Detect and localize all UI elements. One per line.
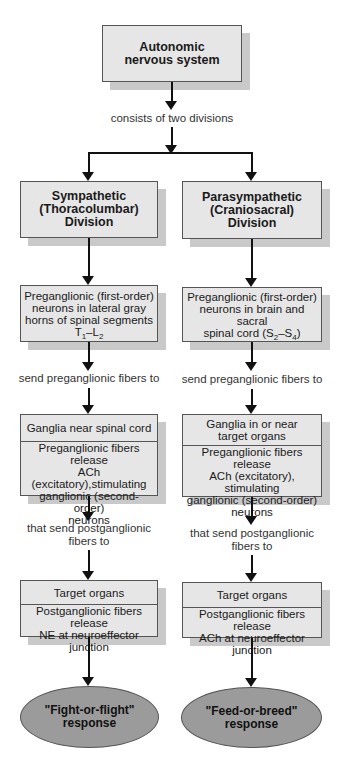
connector-line: [88, 637, 90, 677]
ganglia-line2: ACh (excitatory), stimulating: [186, 470, 318, 494]
sympathetic-target-box: Target organs Postganglionic fibers rele…: [20, 580, 158, 637]
arrow-down-icon: [245, 516, 257, 525]
connector-line: [251, 239, 253, 278]
parasympathetic-target-box: Target organs Postganglionic fibers rele…: [182, 582, 322, 638]
preganglionic-line1: Preganglionic (first-order): [187, 291, 317, 303]
preganglionic-text: Preganglionic (first-order) neurons in b…: [183, 288, 321, 341]
ganglia-line2: ACh (excitatory),stimulating: [24, 466, 154, 490]
parasympathetic-division-box: Parasympathetic (Craniosacral) Division: [182, 181, 322, 239]
arrow-down-icon: [82, 405, 94, 414]
arrow-down-icon: [82, 172, 94, 181]
response-line2: response: [225, 718, 278, 731]
root-title-line2: nervous system: [124, 54, 219, 67]
connector-line: [88, 238, 90, 276]
division-title: Sympathetic (Thoracolumbar) Division: [21, 182, 157, 237]
connector-line: [251, 555, 253, 573]
preganglionic-text: Preganglionic (first-order) neurons in l…: [21, 286, 157, 341]
send-postganglionic-label: that send postganglionic fibers to: [10, 522, 168, 547]
feed-or-breed-ellipse: "Feed-or-breed" response: [181, 687, 322, 748]
arrow-down-icon: [245, 172, 257, 181]
label-line1: that send postganglionic: [172, 527, 332, 540]
ganglia-header: Ganglia near spinal cord: [21, 415, 157, 442]
label-line2: fibers to: [10, 535, 168, 548]
arrow-down-icon: [165, 101, 177, 110]
target-header: Target organs: [183, 583, 321, 608]
label-line1: that send postganglionic: [10, 522, 168, 535]
root-connector-label: consists of two divisions: [96, 112, 248, 125]
response-line1: "Feed-or-breed": [205, 705, 297, 718]
arrow-down-icon: [245, 278, 257, 287]
division-line2: (Craniosacral): [210, 204, 294, 217]
ganglia-line1: Preganglionic fibers release: [186, 446, 318, 470]
sympathetic-preganglionic-box: Preganglionic (first-order) neurons in l…: [20, 285, 158, 342]
arrow-down-icon: [245, 405, 257, 414]
send-preganglionic-label: send preganglionic fibers to: [10, 372, 168, 385]
division-line3: Division: [65, 216, 114, 229]
division-line3: Division: [228, 217, 277, 230]
ganglia-line1: Preganglionic fibers release: [24, 442, 154, 466]
connector-line: [171, 127, 173, 147]
fight-or-flight-ellipse: "Fight-or-flight" response: [20, 686, 159, 748]
connector-line: [88, 342, 90, 363]
target-header: Target organs: [21, 581, 157, 605]
connector-line: [251, 497, 253, 517]
parasympathetic-preganglionic-box: Preganglionic (first-order) neurons in b…: [182, 287, 322, 342]
branch-line: [88, 152, 252, 154]
arrow-down-icon: [245, 362, 257, 371]
connector-line: [88, 496, 90, 513]
arrow-down-icon: [82, 362, 94, 371]
connector-line: [88, 388, 90, 406]
ganglia-header-line1: Ganglia in or near: [206, 418, 297, 430]
arrow-down-icon: [245, 678, 257, 687]
division-title: Parasympathetic (Craniosacral) Division: [183, 182, 321, 238]
ganglia-header: Ganglia in or near target organs: [183, 415, 321, 446]
spinal-segments: T1–L2: [75, 326, 104, 338]
ganglia-header-line2: target organs: [218, 430, 286, 442]
preganglionic-line2: neurons in brain and sacral: [186, 303, 318, 327]
arrow-down-icon: [82, 571, 94, 580]
target-line1: Postganglionic fibers release: [186, 608, 318, 632]
send-preganglionic-label: send preganglionic fibers to: [172, 373, 332, 386]
send-postganglionic-label: that send postganglionic fibers to: [172, 527, 332, 552]
arrow-down-icon: [82, 276, 94, 285]
arrow-down-icon: [82, 677, 94, 686]
label-line2: fibers to: [172, 540, 332, 553]
parasympathetic-ganglia-box: Ganglia in or near target organs Pregang…: [182, 414, 322, 497]
root-title: Autonomic nervous system: [103, 26, 241, 81]
connector-line: [251, 342, 253, 363]
target-line1: Postganglionic fibers release: [24, 605, 154, 629]
connector-line: [171, 82, 173, 102]
connector-line: [88, 152, 90, 172]
connector-line: [251, 389, 253, 406]
sympathetic-ganglia-box: Ganglia near spinal cord Preganglionic f…: [20, 414, 158, 496]
connector-line: [251, 638, 253, 678]
root-title-line1: Autonomic: [139, 41, 204, 54]
preganglionic-line3: spinal cord (S2–S4): [203, 327, 300, 339]
preganglionic-line2: neurons in lateral gray: [32, 302, 146, 314]
arrow-down-icon: [245, 573, 257, 582]
arrow-down-icon: [82, 512, 94, 521]
connector-line: [251, 152, 253, 172]
autonomic-nervous-system-box: Autonomic nervous system: [102, 25, 242, 82]
preganglionic-line3: horns of spinal segments: [25, 314, 153, 326]
sympathetic-division-box: Sympathetic (Thoracolumbar) Division: [20, 181, 158, 238]
division-line1: Parasympathetic: [202, 191, 302, 204]
response-line2: response: [63, 717, 116, 730]
preganglionic-line1: Preganglionic (first-order): [24, 290, 154, 302]
connector-line: [88, 550, 90, 571]
